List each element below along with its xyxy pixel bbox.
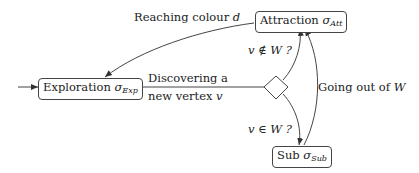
reaching-colour-edge [105,23,254,77]
sub-sub: Sub [311,154,327,163]
exploration-label: Exploration [43,80,111,94]
discovering-label-line2: new vertex v [148,89,223,103]
discovering-label-line1: Discovering a [148,71,228,85]
in-w-edge [283,94,300,145]
sub-node: Sub σSub [272,146,332,168]
reaching-colour-label: Reaching colour d [134,10,240,24]
attraction-node: Attraction σAtt [255,11,347,33]
going-out-label: Going out of W [318,80,405,94]
state-diagram: Exploration σExp Attraction σAtt Sub σSu… [0,0,419,173]
attraction-label: Attraction [260,13,319,27]
exploration-node: Exploration σExp [38,78,143,100]
going-out-edge [304,29,318,145]
attraction-sub: Att [330,19,342,28]
sub-sigma: σ [303,148,311,162]
in-w-label: v ∈ W ? [248,122,292,136]
sub-label: Sub [277,148,300,162]
exploration-sub: Exp [122,86,137,95]
not-in-w-label: v ∉ W ? [248,43,292,57]
